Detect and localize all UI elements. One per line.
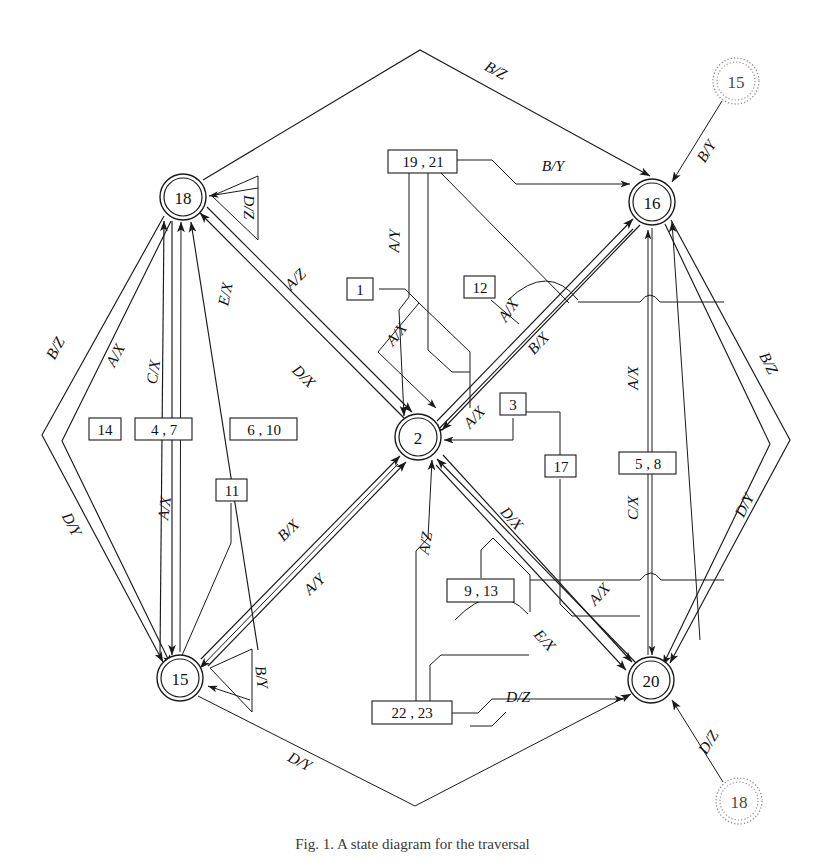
edge-2-18-az: [200, 213, 404, 418]
edge-18-15-outer-dy: [62, 221, 171, 665]
edge-label-dz-low: D/Z: [505, 688, 531, 705]
leader-box1-b: [419, 303, 470, 408]
step-box-14[interactable]: 14: [89, 418, 121, 440]
cross-line-lower: [530, 573, 724, 580]
edge-20-16-right: [672, 222, 700, 640]
edge-label-bx-low: B/X: [274, 515, 303, 544]
edge-label-cx-left: C/X: [143, 358, 164, 385]
step-box-19-21-label: 19 , 21: [402, 154, 443, 170]
edge-label-self18-dz: D/Z: [241, 194, 258, 220]
edge-label-bx-mid: B/X: [524, 328, 553, 357]
step-box-6-10-label: 6 , 10: [247, 422, 281, 438]
edge-16-2-bx2: [434, 229, 633, 434]
edge-label-ay-top: A/Y: [385, 228, 403, 253]
edge-label-dy-left: D/Y: [58, 508, 85, 539]
figure-canvas: 18 16 2 15 20 15 18 B/Z B/Y D/Z A/Z E/X …: [0, 0, 825, 861]
edge-label-dz-right: D/Z: [694, 727, 722, 758]
node-16-label: 16: [644, 194, 661, 213]
step-box-9-13[interactable]: 9 , 13: [447, 579, 514, 602]
step-box-1[interactable]: 1: [347, 278, 373, 300]
node-15[interactable]: 15: [157, 655, 203, 701]
step-box-5-8[interactable]: 5 , 8: [619, 452, 676, 474]
edge-label-ax-left: A/X: [102, 340, 129, 370]
edge-label-az-low: A/Z: [415, 530, 436, 556]
step-box-5-8-label: 5 , 8: [635, 456, 661, 472]
edge-label-top-bz: B/Z: [482, 57, 510, 83]
node-20[interactable]: 20: [628, 657, 674, 703]
leader-1921-third: [428, 172, 470, 372]
edge-g15-16: [672, 101, 722, 182]
step-box-12-label: 12: [473, 280, 488, 296]
edge-16-2-bx: [442, 225, 640, 430]
node-20-label: 20: [643, 672, 660, 691]
leader-box913: [481, 538, 493, 578]
figure-caption: Fig. 1. A state diagram for the traversa…: [0, 836, 825, 853]
leader-1921-second: [441, 173, 569, 303]
step-box-3[interactable]: 3: [500, 393, 526, 415]
edge-label-ax-right: A/X: [624, 366, 641, 391]
node-16[interactable]: 16: [629, 179, 675, 225]
step-box-4-7-label: 4 , 7: [151, 422, 178, 438]
edge-label-ay-low: A/Y: [299, 569, 329, 598]
edge-label-ax-1: A/X: [381, 319, 410, 349]
edge-16-20-outer-dy: [663, 224, 770, 665]
step-box-22-23[interactable]: 22 , 23: [372, 701, 452, 724]
step-box-22-23-label: 22 , 23: [391, 705, 432, 721]
edge-label-dy-right: D/Y: [730, 489, 757, 520]
edge-label-ax-left2: A/X: [154, 495, 174, 522]
step-box-19-21[interactable]: 19 , 21: [388, 150, 457, 173]
step-box-14-label: 14: [98, 422, 114, 438]
edge-16-20-outer-bz: [670, 220, 790, 663]
node-ghost-18-label: 18: [731, 793, 748, 812]
edge-label-ex-low: E/X: [530, 625, 559, 655]
node-2-label: 2: [414, 429, 423, 448]
step-box-17-label: 17: [554, 459, 570, 475]
step-box-3-label: 3: [509, 397, 517, 413]
edge-label-ax-right2: A/X: [584, 579, 613, 609]
node-ghost-15[interactable]: 15: [713, 58, 759, 104]
node-ghost-15-label: 15: [728, 73, 745, 92]
step-box-17[interactable]: 17: [545, 455, 576, 477]
edge-label-ex: E/X: [214, 280, 236, 308]
edge-label-by-15: B/Y: [252, 665, 272, 691]
step-box-9-13-label: 9 , 13: [464, 583, 498, 599]
edge-label-dy-bottom: D/Y: [285, 747, 316, 774]
edge-label-ax-12: A/X: [494, 295, 522, 325]
edge-label-by-ghost: B/Y: [693, 136, 720, 165]
step-box-1-label: 1: [356, 282, 364, 298]
node-15-label: 15: [172, 670, 189, 689]
edge-label-bz-right: B/Z: [756, 349, 781, 377]
edge-label-bz-left: B/Z: [42, 334, 68, 362]
leader-box1: [378, 289, 436, 408]
node-18[interactable]: 18: [160, 174, 206, 220]
edge-ay-to-2: [399, 172, 409, 416]
step-box-11-label: 11: [225, 483, 239, 499]
step-box-11[interactable]: 11: [216, 479, 247, 501]
edge-label-az: A/Z: [280, 265, 309, 294]
edge-2-16-ax: [437, 219, 633, 421]
edge-label-dx-low: D/X: [497, 502, 527, 533]
edge-label-cx-right: C/X: [624, 495, 641, 520]
node-2[interactable]: 2: [395, 414, 441, 460]
node-18-label: 18: [175, 189, 192, 208]
step-box-12[interactable]: 12: [464, 276, 495, 298]
edge-2-20-ex2: [436, 465, 626, 670]
edge-label-dx: D/X: [288, 360, 319, 391]
step-box-6-10[interactable]: 6 , 10: [230, 418, 297, 440]
edge-label-by-top: B/Y: [542, 157, 566, 174]
edge-label-ax-3: A/X: [459, 402, 488, 432]
leader-box2223-dz-b: [470, 712, 506, 726]
node-ghost-18[interactable]: 18: [716, 778, 762, 824]
leader-box3-b: [525, 412, 560, 455]
state-diagram: 18 16 2 15 20 15 18 B/Z B/Y D/Z A/Z E/X …: [0, 0, 825, 861]
step-box-4-7[interactable]: 4 , 7: [135, 418, 192, 440]
